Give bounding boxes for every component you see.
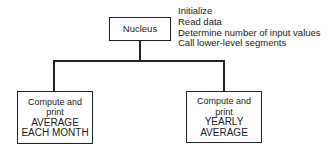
connector-left-down [53,60,55,92]
nucleus-notes: Initialize Read data Determine number of… [178,6,321,49]
note-read-data: Read data [178,17,321,28]
note-call-lower-segments: Call lower-level segments [178,38,321,49]
connector-right-down [223,60,225,92]
nucleus-label: Nucleus [123,24,157,35]
yearly-line-3: YEARLY [205,117,244,128]
connector-root-down [139,41,141,61]
yearly-line-1: Compute and [197,96,251,107]
monthly-line-4: EACH MONTH [21,128,88,139]
monthly-average-box: Compute and print AVERAGE EACH MONTH [17,91,93,144]
monthly-line-1: Compute and [28,97,82,108]
yearly-average-box: Compute and print YEARLY AVERAGE [186,91,262,143]
nucleus-box: Nucleus [109,17,171,41]
yearly-line-4: AVERAGE [200,128,248,139]
monthly-line-2: print [46,107,64,118]
connector-horizontal [53,60,224,62]
